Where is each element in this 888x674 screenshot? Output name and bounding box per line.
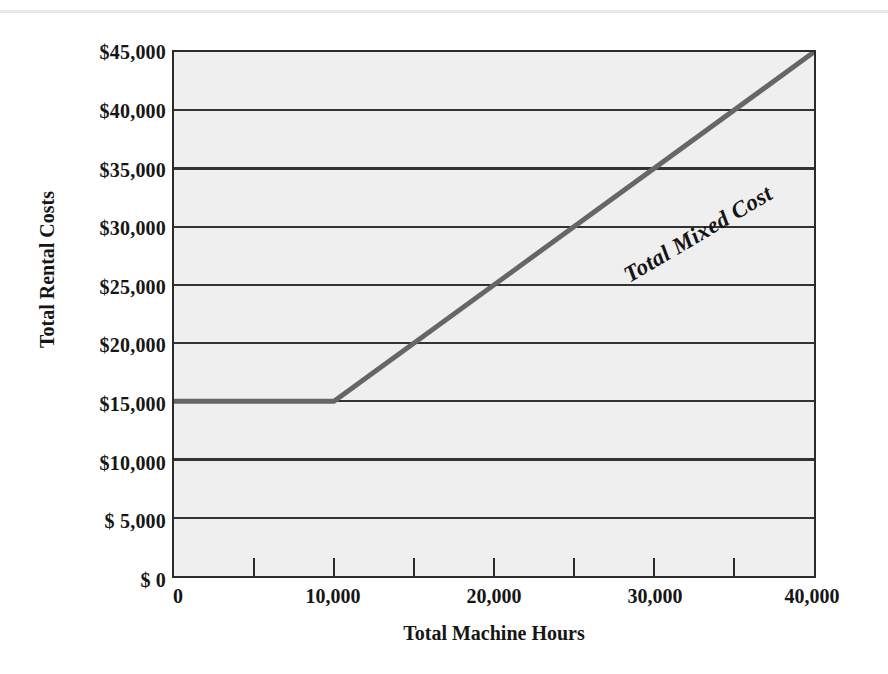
y-tick-label-40000: $40,000 bbox=[16, 101, 166, 121]
y-tick-label-5000: $ 5,000 bbox=[16, 511, 166, 531]
figure-page: Total Rental Costs $45,000 $40,000 $35,0… bbox=[0, 0, 888, 674]
x-tick-label-40000: 40,000 bbox=[737, 586, 887, 606]
mixed-cost-chart: Total Rental Costs $45,000 $40,000 $35,0… bbox=[0, 0, 888, 674]
plot-canvas bbox=[174, 52, 814, 576]
y-tick-label-15000: $15,000 bbox=[16, 394, 166, 414]
plot-area: Total Mixed Cost bbox=[172, 50, 816, 578]
y-tick-label-10000: $10,000 bbox=[16, 453, 166, 473]
x-tick-label-0: 0 bbox=[103, 586, 253, 606]
x-axis-ticks bbox=[254, 558, 734, 576]
x-tick-label-10000: 10,000 bbox=[258, 586, 408, 606]
y-tick-label-35000: $35,000 bbox=[16, 160, 166, 180]
gridlines-horizontal bbox=[174, 110, 814, 517]
y-tick-label-30000: $30,000 bbox=[16, 218, 166, 238]
y-tick-label-45000: $45,000 bbox=[16, 42, 166, 62]
x-tick-label-20000: 20,000 bbox=[419, 586, 569, 606]
y-tick-label-20000: $20,000 bbox=[16, 335, 166, 355]
x-tick-label-30000: 30,000 bbox=[580, 586, 730, 606]
y-tick-label-25000: $25,000 bbox=[16, 277, 166, 297]
y-axis-tick-labels: $45,000 $40,000 $35,000 $30,000 $25,000 … bbox=[8, 0, 166, 674]
x-axis-title: Total Machine Hours bbox=[172, 622, 816, 645]
